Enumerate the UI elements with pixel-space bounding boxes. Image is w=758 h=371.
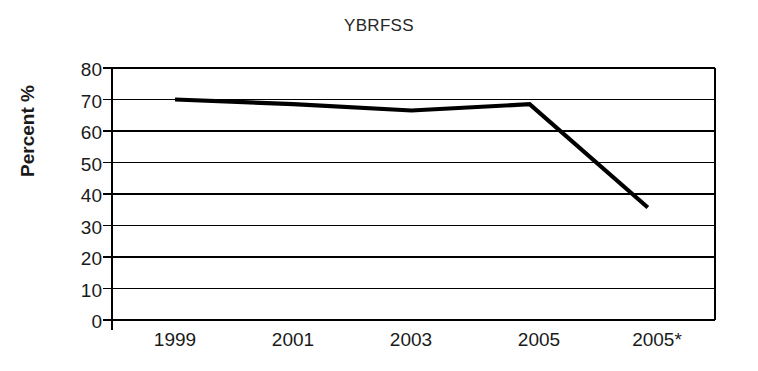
axis-ticks-group xyxy=(103,68,112,330)
data-line-ybrfss xyxy=(175,100,648,208)
data-series-group xyxy=(175,100,648,208)
chart-figure: YBRFSS Percent % 80 70 60 50 40 30 20 10… xyxy=(0,0,758,371)
plot-area xyxy=(0,0,758,371)
